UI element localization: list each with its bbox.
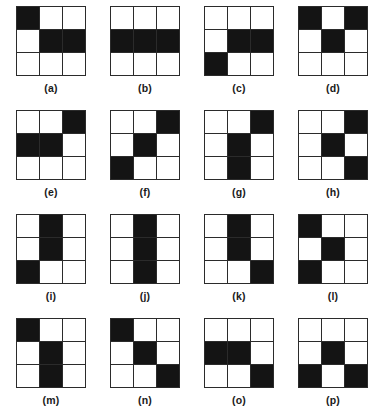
matrix-cell-empty xyxy=(228,319,251,342)
matrix-panel-e: (e) xyxy=(6,110,96,198)
matrix-panel-a: (a) xyxy=(6,6,96,94)
matrix-cell-empty xyxy=(111,215,134,238)
matrix-cell-empty xyxy=(157,238,180,261)
matrix-cell-empty xyxy=(205,134,228,157)
matrix-cell-empty xyxy=(63,134,86,157)
matrix-grid-d xyxy=(298,6,368,76)
matrix-cell-filled xyxy=(134,134,157,157)
matrix-panel-n: (n) xyxy=(100,318,190,406)
matrix-cell-filled xyxy=(251,111,274,134)
matrix-cell-empty xyxy=(157,7,180,30)
matrix-cell-empty xyxy=(345,238,368,261)
matrix-cell-filled xyxy=(251,365,274,388)
matrix-cell-empty xyxy=(299,238,322,261)
matrix-cell-empty xyxy=(134,7,157,30)
matrix-cell-filled xyxy=(205,53,228,76)
matrix-cell-filled xyxy=(345,365,368,388)
matrix-grid-o xyxy=(204,318,274,388)
panel-caption: (a) xyxy=(44,83,57,94)
matrix-cell-empty xyxy=(157,261,180,284)
panel-caption: (g) xyxy=(232,187,246,198)
matrix-cell-empty xyxy=(63,53,86,76)
matrix-cell-empty xyxy=(63,319,86,342)
matrix-cell-empty xyxy=(17,215,40,238)
matrix-panel-o: (o) xyxy=(194,318,284,406)
matrix-cell-empty xyxy=(63,157,86,180)
panel-caption: (e) xyxy=(44,187,57,198)
matrix-cell-empty xyxy=(228,53,251,76)
matrix-cell-filled xyxy=(40,30,63,53)
panel-caption: (d) xyxy=(326,83,340,94)
matrix-cell-empty xyxy=(251,134,274,157)
matrix-cell-empty xyxy=(63,261,86,284)
matrix-cell-filled xyxy=(322,30,345,53)
matrix-cell-empty xyxy=(63,238,86,261)
matrix-cell-empty xyxy=(40,157,63,180)
matrix-cell-empty xyxy=(299,53,322,76)
matrix-cell-filled xyxy=(345,111,368,134)
matrix-cell-filled xyxy=(345,157,368,180)
matrix-cell-empty xyxy=(111,7,134,30)
matrix-cell-empty xyxy=(63,342,86,365)
matrix-panel-p: (p) xyxy=(288,318,378,406)
matrix-cell-empty xyxy=(111,261,134,284)
matrix-cell-filled xyxy=(157,30,180,53)
matrix-cell-filled xyxy=(157,111,180,134)
matrix-cell-empty xyxy=(251,215,274,238)
matrix-cell-filled xyxy=(40,134,63,157)
matrix-panel-i: (i) xyxy=(6,214,96,302)
matrix-cell-empty xyxy=(40,261,63,284)
matrix-cell-filled xyxy=(134,238,157,261)
matrix-cell-empty xyxy=(40,7,63,30)
matrix-cell-empty xyxy=(134,365,157,388)
matrix-cell-filled xyxy=(134,261,157,284)
matrix-cell-filled xyxy=(134,215,157,238)
matrix-cell-empty xyxy=(17,157,40,180)
matrix-cell-empty xyxy=(345,215,368,238)
matrix-cell-empty xyxy=(134,111,157,134)
panel-caption: (p) xyxy=(326,395,340,406)
matrix-cell-filled xyxy=(322,342,345,365)
matrix-cell-empty xyxy=(251,319,274,342)
matrix-grid-b xyxy=(110,6,180,76)
matrix-cell-empty xyxy=(17,111,40,134)
matrix-cell-empty xyxy=(322,111,345,134)
matrix-cell-filled xyxy=(345,7,368,30)
matrix-panel-l: (l) xyxy=(288,214,378,302)
matrix-cell-empty xyxy=(322,215,345,238)
matrix-cell-filled xyxy=(228,238,251,261)
matrix-cell-filled xyxy=(63,30,86,53)
matrix-cell-empty xyxy=(63,365,86,388)
matrix-cell-empty xyxy=(111,365,134,388)
matrix-cell-filled xyxy=(111,157,134,180)
matrix-cell-empty xyxy=(17,365,40,388)
panel-caption: (k) xyxy=(232,291,245,302)
matrix-cell-empty xyxy=(17,53,40,76)
matrix-cell-filled xyxy=(17,319,40,342)
matrix-cell-filled xyxy=(134,30,157,53)
matrix-cell-empty xyxy=(205,30,228,53)
matrix-grid-k xyxy=(204,214,274,284)
matrix-cell-empty xyxy=(251,238,274,261)
matrix-cell-empty xyxy=(63,7,86,30)
matrix-cell-empty xyxy=(322,53,345,76)
matrix-grid-j xyxy=(110,214,180,284)
panel-caption: (c) xyxy=(232,83,245,94)
matrix-cell-filled xyxy=(17,7,40,30)
panel-caption: (j) xyxy=(140,291,151,302)
matrix-panel-g: (g) xyxy=(194,110,284,198)
matrix-cell-empty xyxy=(157,215,180,238)
matrix-cell-empty xyxy=(134,319,157,342)
matrix-cell-filled xyxy=(40,238,63,261)
matrix-cell-empty xyxy=(111,53,134,76)
matrix-cell-empty xyxy=(17,342,40,365)
matrix-grid-c xyxy=(204,6,274,76)
matrix-cell-filled xyxy=(40,215,63,238)
matrix-cell-filled xyxy=(40,365,63,388)
matrix-cell-empty xyxy=(205,238,228,261)
matrix-grid-n xyxy=(110,318,180,388)
matrix-panel-f: (f) xyxy=(100,110,190,198)
matrix-cell-empty xyxy=(228,365,251,388)
matrix-cell-empty xyxy=(322,7,345,30)
matrix-cell-filled xyxy=(228,134,251,157)
